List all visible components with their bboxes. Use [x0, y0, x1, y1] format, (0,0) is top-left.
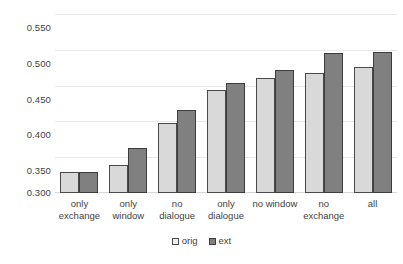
- bar-pair: [299, 14, 348, 193]
- bar-pair: [55, 14, 104, 193]
- bar-group: [348, 14, 397, 193]
- legend-item-ext: ext: [209, 236, 232, 246]
- x-axis-tick-label: no exchange: [299, 196, 348, 230]
- bar-ext: [79, 172, 98, 193]
- x-axis-labels: only exchangeonly windowno dialogueonly …: [55, 196, 397, 230]
- bar-orig: [60, 172, 79, 193]
- bar-group: [104, 14, 153, 193]
- bar-ext: [177, 110, 196, 193]
- bar-pair: [348, 14, 397, 193]
- y-axis-tick-label: 0.350: [5, 166, 51, 176]
- bar-group: [202, 14, 251, 193]
- bar-orig: [305, 73, 324, 193]
- x-axis-tick-label: all: [348, 196, 397, 230]
- bar-orig: [109, 165, 128, 193]
- bar-orig: [256, 78, 275, 193]
- y-axis-tick-label: 0.300: [5, 188, 51, 198]
- bar-ext: [128, 148, 147, 193]
- chart-legend: orig ext: [0, 236, 403, 246]
- bar-orig: [158, 123, 177, 193]
- bar-group: [55, 14, 104, 193]
- y-axis-tick-label: 0.450: [5, 95, 51, 105]
- legend-item-orig: orig: [172, 236, 198, 246]
- y-axis: 0.550 0.500 0.450 0.400 0.350 0.300: [0, 14, 51, 193]
- x-axis-tick-label: only exchange: [55, 196, 104, 230]
- y-axis-tick-label: 0.400: [5, 130, 51, 140]
- bar-orig: [354, 67, 373, 193]
- bar-orig: [207, 90, 226, 193]
- legend-item-label: ext: [219, 236, 232, 246]
- bar-ext: [275, 70, 294, 193]
- x-axis-tick-label: only window: [104, 196, 153, 230]
- bar-group: [153, 14, 202, 193]
- bar-chart: 0.550 0.500 0.450 0.400 0.350 0.300 only…: [0, 0, 403, 264]
- bar-pair: [104, 14, 153, 193]
- x-axis-tick-label: no dialogue: [153, 196, 202, 230]
- bar-ext: [373, 52, 392, 193]
- x-axis-tick-label: no window: [250, 196, 299, 230]
- bar-ext: [226, 83, 245, 193]
- bar-ext: [324, 53, 343, 193]
- legend-swatch-icon: [209, 238, 216, 245]
- bar-groups: [55, 14, 397, 193]
- legend-item-label: orig: [182, 236, 198, 246]
- bar-group: [250, 14, 299, 193]
- legend-swatch-icon: [172, 238, 179, 245]
- y-axis-tick-label: 0.550: [5, 23, 51, 33]
- bar-pair: [202, 14, 251, 193]
- y-axis-tick-label: 0.500: [5, 59, 51, 69]
- plot-area: [55, 14, 397, 193]
- bar-pair: [250, 14, 299, 193]
- x-axis-tick-label: only dialogue: [202, 196, 251, 230]
- bar-group: [299, 14, 348, 193]
- bar-pair: [153, 14, 202, 193]
